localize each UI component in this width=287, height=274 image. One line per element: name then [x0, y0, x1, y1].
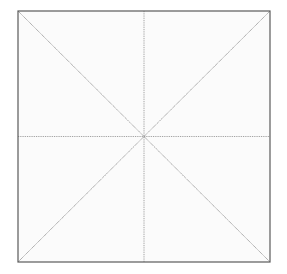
- diagram-canvas: [0, 0, 287, 274]
- square-diagram: [0, 0, 287, 274]
